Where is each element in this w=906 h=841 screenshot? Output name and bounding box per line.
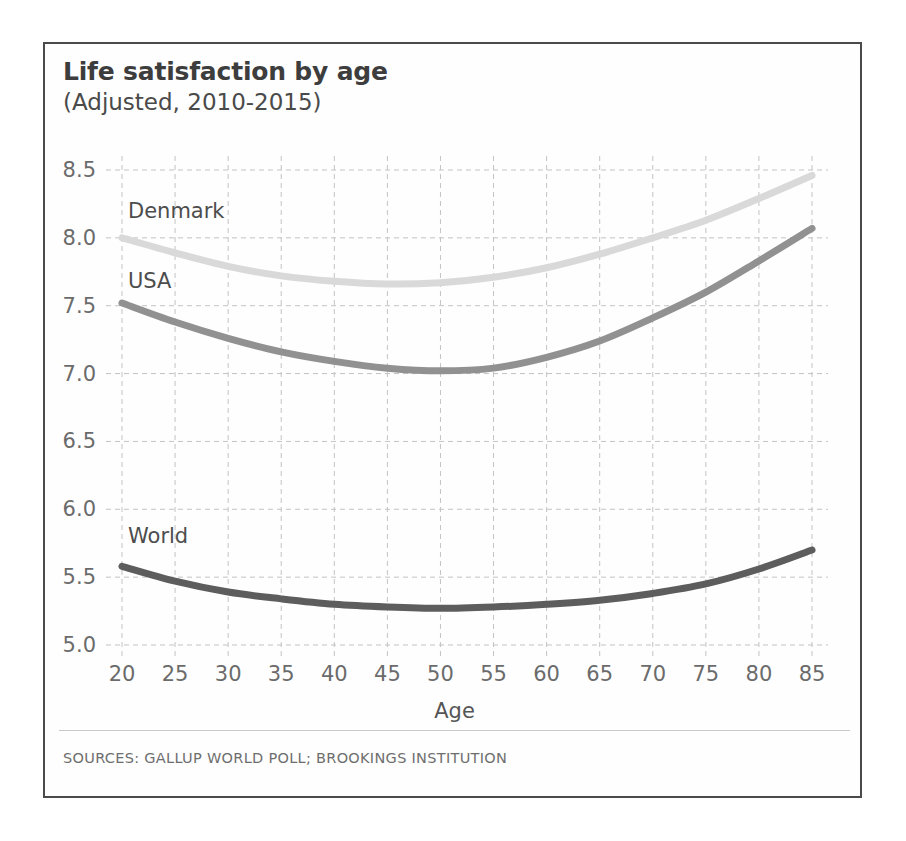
x-tick-label: 25 [162,662,189,686]
series-line-world [122,550,812,608]
x-tick-label: 65 [586,662,613,686]
series-label-world: World [128,524,188,548]
series-label-denmark: Denmark [128,199,225,223]
y-tick-label: 8.5 [63,158,96,182]
x-tick-label: 35 [268,662,295,686]
x-tick-label: 55 [480,662,507,686]
source-note: SOURCES: GALLUP WORLD POLL; BROOKINGS IN… [63,750,507,766]
x-axis-title: Age [45,699,864,723]
x-tick-label: 75 [692,662,719,686]
chart-figure: Life satisfaction by age (Adjusted, 2010… [43,42,862,798]
x-tick-label: 20 [109,662,136,686]
y-tick-label: 8.0 [63,226,96,250]
x-axis-tick-labels: 2025303540455055606570758085 [109,662,826,686]
plot-area: 5.05.56.06.57.07.58.08.5 202530354045505… [45,44,860,796]
y-tick-label: 6.5 [63,429,96,453]
line-chart-svg: 5.05.56.06.57.07.58.08.5 202530354045505… [45,44,864,800]
series-line-usa [122,228,812,370]
y-axis-tick-labels: 5.05.56.06.57.07.58.08.5 [63,158,96,657]
x-tick-label: 60 [533,662,560,686]
x-tick-label: 80 [746,662,773,686]
y-tick-label: 7.0 [63,362,96,386]
y-tick-label: 5.0 [63,633,96,657]
y-tick-label: 7.5 [63,294,96,318]
x-tick-label: 50 [427,662,454,686]
y-tick-label: 5.5 [63,565,96,589]
y-tick-label: 6.0 [63,497,96,521]
x-tick-label: 70 [639,662,666,686]
x-tick-label: 40 [321,662,348,686]
series-line-denmark [122,175,812,284]
data-series-layer [122,175,812,608]
x-tick-label: 85 [799,662,826,686]
series-label-usa: USA [128,269,171,293]
x-tick-label: 45 [374,662,401,686]
x-tick-label: 30 [215,662,242,686]
footer-divider [59,730,850,731]
